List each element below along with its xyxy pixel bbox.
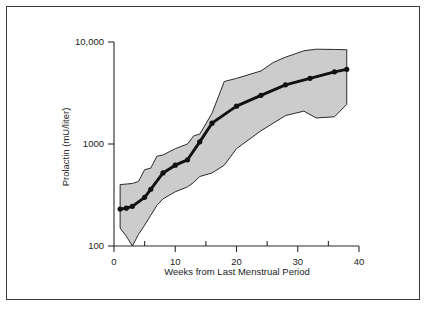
y-tick-label: 100 (88, 240, 104, 251)
x-tick-label: 0 (111, 256, 116, 267)
data-point-marker (142, 195, 147, 200)
figure-frame: 100100010,000 010203040 Weeks from Last … (6, 6, 420, 300)
data-point-marker (130, 204, 135, 209)
data-point-marker (160, 170, 165, 175)
data-point-marker (258, 93, 263, 98)
data-point-marker (197, 139, 202, 144)
data-point-marker (148, 187, 153, 192)
data-point-marker (118, 207, 123, 212)
data-point-marker (332, 69, 337, 74)
x-tick-label: 40 (354, 256, 365, 267)
data-point-marker (307, 76, 312, 81)
y-tick-label: 1000 (83, 138, 104, 149)
data-point-marker (124, 206, 129, 211)
figure-container: 100100010,000 010203040 Weeks from Last … (0, 0, 428, 314)
prolactin-line-chart: 100100010,000 010203040 Weeks from Last … (7, 7, 419, 299)
data-point-marker (234, 104, 239, 109)
data-point-marker (209, 121, 214, 126)
data-point-marker (283, 82, 288, 87)
data-point-marker (185, 157, 190, 162)
y-axis-title: Prolactin (mU/liter) (60, 108, 71, 187)
data-point-marker (173, 163, 178, 168)
data-point-marker (344, 67, 349, 72)
y-axis-tick-labels: 100100010,000 (75, 36, 104, 251)
y-tick-label: 10,000 (75, 36, 104, 47)
x-axis-title: Weeks from Last Menstrual Period (164, 266, 310, 277)
y-axis-ticks (108, 42, 114, 246)
